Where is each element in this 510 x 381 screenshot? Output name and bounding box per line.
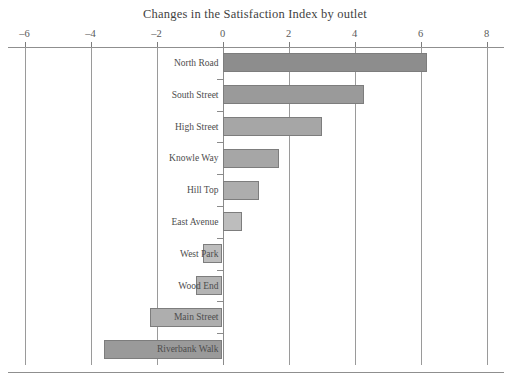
- category-tick: [217, 142, 223, 143]
- category-label: Main Street: [174, 311, 219, 323]
- category-tick: [217, 111, 223, 112]
- x-tick-label-6: 6: [418, 28, 423, 39]
- gridline-1: [91, 47, 92, 365]
- category-tick: [217, 270, 223, 271]
- category-label: Riverbank Walk: [157, 343, 219, 355]
- category-label: Wood End: [178, 280, 218, 292]
- bar: [223, 85, 365, 104]
- category-tick: [217, 79, 223, 80]
- bar: [223, 212, 243, 231]
- category-label: South Street: [172, 89, 219, 101]
- category-label: Hill Top: [187, 184, 219, 196]
- bar: [223, 149, 279, 168]
- category-label: High Street: [175, 121, 219, 133]
- x-tick-label-0: –6: [19, 28, 30, 39]
- x-tick-label-5: 4: [352, 28, 357, 39]
- x-tick-label-3: 0: [220, 28, 225, 39]
- category-tick: [217, 47, 223, 48]
- bar: [223, 181, 259, 200]
- category-label: North Road: [174, 57, 219, 69]
- x-tick-label-1: –4: [85, 28, 96, 39]
- satisfaction-index-bar-chart: Changes in the Satisfaction Index by out…: [0, 0, 510, 381]
- category-label: West Park: [180, 248, 219, 260]
- category-tick: [217, 333, 223, 334]
- x-tick-label-7: 8: [484, 28, 489, 39]
- category-label: East Avenue: [171, 216, 218, 228]
- top-axis-line: [8, 47, 504, 48]
- gridline-6: [421, 47, 422, 365]
- category-tick: [217, 238, 223, 239]
- gridline-7: [487, 47, 488, 365]
- gridline-0: [25, 47, 26, 365]
- category-tick: [217, 174, 223, 175]
- x-tick-label-2: –2: [151, 28, 162, 39]
- bar: [223, 117, 322, 136]
- category-tick: [217, 206, 223, 207]
- category-label: Knowle Way: [169, 152, 218, 164]
- category-tick: [217, 301, 223, 302]
- chart-title: Changes in the Satisfaction Index by out…: [0, 7, 510, 22]
- bar: [223, 53, 428, 72]
- x-tick-label-4: 2: [286, 28, 291, 39]
- bottom-rule: [8, 372, 504, 373]
